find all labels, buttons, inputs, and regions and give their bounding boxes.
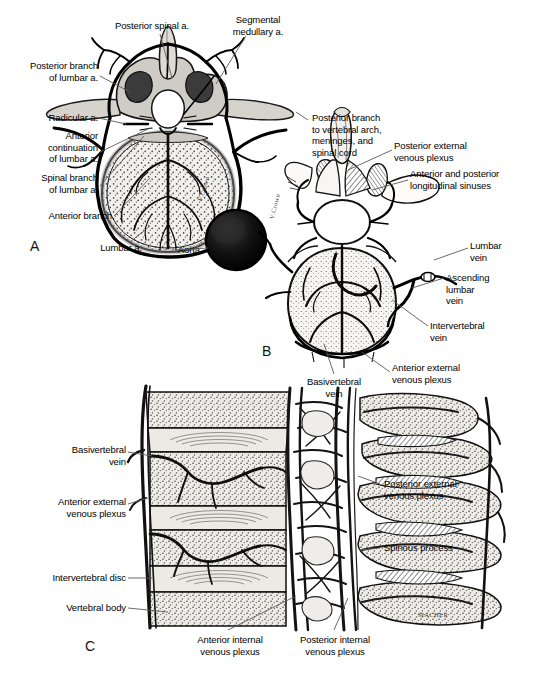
label-lumbar-vein: Lumbar vein (470, 240, 532, 263)
label-anterior-internal-venous-plexus: Anterior internal venous plexus (178, 634, 282, 657)
panel-c-column (128, 386, 505, 630)
signature-panel-c: MACHER (418, 611, 448, 618)
anatomy-figure: Posterior spinal a. Segmental medullary … (0, 0, 537, 673)
label-spinal-branch-of-lumbar-a: Spinal branch of lumbar a. (0, 172, 98, 195)
label-posterior-branch-of-lumbar-a: Posterior branch of lumbar a. (0, 60, 98, 83)
label-segmental-medullary-a: Segmental medullary a. (216, 14, 300, 37)
label-posterior-external-venous-plexus: Posterior external venous plexus (394, 140, 510, 163)
label-ascending-lumbar-vein: Ascending lumbar vein (446, 272, 520, 307)
panel-letter-a: A (30, 238, 39, 254)
label-posterior-internal-venous-plexus: Posterior internal venous plexus (282, 634, 388, 657)
label-vertebral-body: Vertebral body (16, 602, 126, 614)
label-anterior-and-posterior-longitudinal-sinuses: Anterior and posterior longitudinal sinu… (410, 168, 536, 191)
label-aorta: Aorta (148, 244, 200, 256)
label-basivertebral-vein-b: Basivertebral vein (288, 376, 380, 399)
label-intervertebral-disc: Intervertebral disc (8, 572, 126, 584)
label-anterior-external-venous-plexus: Anterior external venous plexus (392, 362, 498, 385)
label-spinous-process: Spinous process (384, 542, 494, 554)
label-lumbar-a: Lumbar a. (80, 242, 142, 254)
label-anterior-external-venous-plexus-c: Anterior external venous plexus (16, 496, 126, 519)
label-radicular-a: Radicular a. (0, 112, 98, 124)
label-intervertebral-vein: Intervertebral vein (430, 320, 516, 343)
panel-letter-b: B (262, 343, 271, 359)
label-anterior-continuation-of-lumbar-a: Anterior continuation of lumbar a. (0, 130, 98, 165)
label-posterior-spinal-a: Posterior spinal a. (96, 20, 208, 32)
label-anterior-branch: Anterior branch (0, 210, 112, 222)
panel-letter-c: C (85, 638, 95, 654)
label-posterior-external-venous-plexus-c: Posterior external venous plexus (384, 478, 504, 501)
label-basivertebral-vein-c: Basivertebral vein (26, 444, 126, 467)
